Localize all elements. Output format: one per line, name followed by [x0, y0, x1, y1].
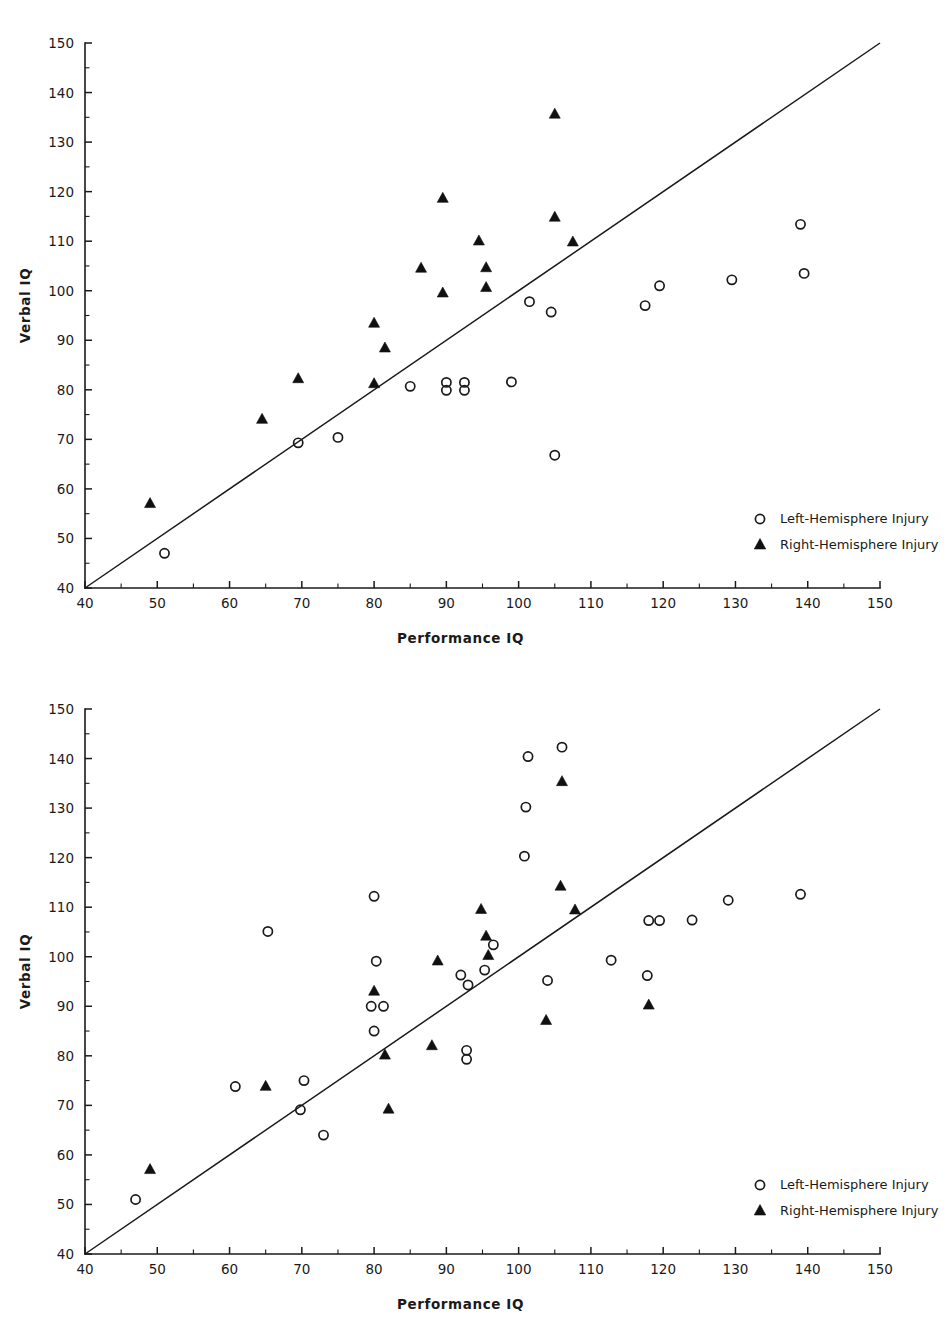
data-point-open-circle — [550, 451, 559, 460]
y-tick-label: 100 — [48, 949, 74, 965]
y-tick-label: 150 — [48, 35, 74, 51]
y-axis-title: Verbal IQ — [17, 268, 33, 344]
y-tick-label: 80 — [57, 382, 74, 398]
data-point-open-circle — [231, 1082, 240, 1091]
data-point-open-circle — [379, 1002, 388, 1011]
data-point-filled-triangle — [437, 192, 448, 202]
x-tick-label: 90 — [438, 595, 455, 611]
data-point-filled-triangle — [369, 378, 380, 388]
x-tick-label: 40 — [76, 595, 93, 611]
legend-filled-triangle-marker-icon — [754, 538, 766, 549]
data-point-open-circle — [294, 438, 303, 447]
y-tick-label: 110 — [48, 233, 74, 249]
data-point-open-circle — [369, 1026, 378, 1035]
identity-reference-line — [85, 709, 880, 1254]
data-point-open-circle — [369, 892, 378, 901]
y-tick-label: 90 — [57, 332, 74, 348]
data-point-filled-triangle — [257, 413, 268, 423]
data-point-open-circle — [644, 916, 653, 925]
y-tick-label: 130 — [48, 800, 74, 816]
data-point-filled-triangle — [145, 498, 156, 508]
x-tick-label: 110 — [578, 595, 604, 611]
y-tick-label: 80 — [57, 1048, 74, 1064]
y-tick-label: 120 — [48, 850, 74, 866]
x-tick-label: 140 — [795, 1261, 821, 1277]
y-tick-label: 130 — [48, 134, 74, 150]
legend-filled-triangle-marker-icon — [754, 1204, 766, 1215]
data-point-open-circle — [463, 980, 472, 989]
x-tick-label: 80 — [365, 595, 382, 611]
data-point-filled-triangle — [481, 930, 492, 940]
data-point-filled-triangle — [369, 317, 380, 327]
x-tick-label: 130 — [723, 595, 749, 611]
y-tick-label: 110 — [48, 899, 74, 915]
scatter-plot-top: 4050607080901001101201301401504050607080… — [0, 0, 947, 666]
data-point-filled-triangle — [426, 1040, 437, 1050]
data-point-open-circle — [333, 433, 342, 442]
scatter-plot-bottom: 4050607080901001101201301401504050607080… — [0, 666, 947, 1332]
y-tick-label: 60 — [57, 481, 74, 497]
data-point-filled-triangle — [567, 236, 578, 246]
x-axis-title: Performance IQ — [397, 1296, 524, 1312]
data-point-filled-triangle — [476, 903, 487, 913]
x-tick-label: 60 — [221, 595, 238, 611]
data-point-filled-triangle — [483, 950, 494, 960]
data-point-open-circle — [525, 297, 534, 306]
data-point-open-circle — [796, 220, 805, 229]
data-point-filled-triangle — [416, 262, 427, 272]
data-point-filled-triangle — [570, 904, 581, 914]
data-point-filled-triangle — [557, 776, 568, 786]
y-tick-label: 120 — [48, 184, 74, 200]
legend-open-circle-marker-icon — [755, 514, 764, 523]
identity-reference-line — [85, 43, 880, 588]
data-point-filled-triangle — [555, 880, 566, 890]
data-point-open-circle — [299, 1076, 308, 1085]
x-tick-label: 110 — [578, 1261, 604, 1277]
figure-page: 4050607080901001101201301401504050607080… — [0, 0, 947, 1332]
y-tick-label: 140 — [48, 751, 74, 767]
data-point-open-circle — [641, 301, 650, 310]
y-tick-label: 40 — [57, 580, 74, 596]
y-tick-label: 70 — [57, 431, 74, 447]
data-point-open-circle — [367, 1002, 376, 1011]
data-point-open-circle — [319, 1130, 328, 1139]
x-tick-label: 100 — [506, 1261, 532, 1277]
x-tick-label: 70 — [293, 1261, 310, 1277]
x-tick-label: 50 — [149, 595, 166, 611]
data-point-open-circle — [160, 549, 169, 558]
data-point-open-circle — [800, 269, 809, 278]
legend-label: Right-Hemisphere Injury — [780, 1203, 939, 1218]
series-right-hemisphere — [145, 776, 655, 1174]
x-axis-title: Performance IQ — [397, 630, 524, 646]
data-point-open-circle — [462, 1055, 471, 1064]
data-point-open-circle — [521, 803, 530, 812]
y-tick-label: 150 — [48, 701, 74, 717]
data-point-open-circle — [655, 281, 664, 290]
series-right-hemisphere — [145, 108, 579, 507]
scatter-panel-top: 4050607080901001101201301401504050607080… — [0, 0, 947, 666]
x-tick-label: 60 — [221, 1261, 238, 1277]
data-point-open-circle — [724, 896, 733, 905]
data-point-open-circle — [607, 956, 616, 965]
x-tick-label: 150 — [867, 595, 893, 611]
data-point-filled-triangle — [481, 282, 492, 292]
data-point-open-circle — [406, 382, 415, 391]
legend-label: Left-Hemisphere Injury — [780, 1177, 929, 1192]
x-tick-label: 120 — [650, 1261, 676, 1277]
data-point-filled-triangle — [293, 373, 304, 383]
data-point-filled-triangle — [541, 1014, 552, 1024]
y-tick-label: 90 — [57, 998, 74, 1014]
data-point-filled-triangle — [432, 955, 443, 965]
x-tick-label: 140 — [795, 595, 821, 611]
x-tick-label: 80 — [365, 1261, 382, 1277]
legend: Left-Hemisphere InjuryRight-Hemisphere I… — [754, 1177, 938, 1218]
x-tick-label: 50 — [149, 1261, 166, 1277]
data-point-open-circle — [507, 377, 516, 386]
data-point-open-circle — [687, 915, 696, 924]
y-axis-title: Verbal IQ — [17, 934, 33, 1010]
x-tick-label: 120 — [650, 595, 676, 611]
series-left-hemisphere — [131, 743, 805, 1205]
y-tick-label: 140 — [48, 85, 74, 101]
data-point-open-circle — [462, 1046, 471, 1055]
data-point-filled-triangle — [260, 1080, 271, 1090]
